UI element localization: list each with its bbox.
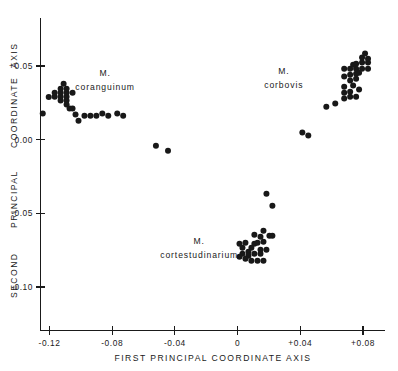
data-point <box>93 113 99 119</box>
y-axis-title-group: SECONDPRINCIPALCOORDINATEAXIS <box>9 43 19 298</box>
data-point <box>248 245 254 251</box>
data-point <box>365 66 371 72</box>
data-point <box>64 86 70 92</box>
data-point <box>353 94 359 100</box>
data-point <box>269 203 275 209</box>
data-point <box>347 72 353 78</box>
data-point <box>87 113 93 119</box>
cortestudinarium-label-line-1: cortestudinarium <box>160 250 238 260</box>
data-point <box>341 96 347 102</box>
data-point <box>239 245 245 251</box>
data-point <box>260 228 266 234</box>
data-point <box>323 104 329 110</box>
data-point <box>255 258 261 264</box>
data-point <box>242 240 248 246</box>
data-point <box>350 62 356 68</box>
data-point <box>365 56 371 62</box>
data-point <box>299 130 305 136</box>
series-2 <box>236 191 275 264</box>
data-point <box>356 87 362 93</box>
x-tick-label-0: -0.12 <box>39 338 61 348</box>
data-point <box>341 84 347 90</box>
data-point <box>263 191 269 197</box>
data-point <box>260 258 266 264</box>
data-point <box>76 118 82 124</box>
x-tick-label-5: +0.08 <box>351 338 375 348</box>
coranguinum-label-line-1: coranguinum <box>75 82 135 92</box>
data-point <box>260 239 266 245</box>
data-point <box>251 232 257 238</box>
data-point <box>242 256 248 262</box>
data-point <box>257 251 263 257</box>
data-point <box>305 133 311 139</box>
axes-group <box>41 18 386 331</box>
data-point <box>105 113 111 119</box>
data-point <box>70 106 76 112</box>
data-point <box>99 111 105 117</box>
data-point <box>263 247 269 253</box>
data-point <box>257 234 263 240</box>
y-axis-title-word-3: AXIS <box>9 43 19 68</box>
data-point <box>341 90 347 96</box>
data-point <box>347 78 353 84</box>
annotation-group: M.coranguinumM.corbovisM.cortestudinariu… <box>75 66 303 259</box>
data-point <box>153 143 159 149</box>
data-point <box>350 83 356 89</box>
y-axis-title-word-1: PRINCIPAL <box>9 170 19 228</box>
x-tick-label-group: -0.12-0.08-0.040+0.04+0.08 <box>39 338 375 348</box>
data-point <box>347 89 353 95</box>
data-point <box>81 113 87 119</box>
data-point <box>248 258 254 264</box>
series-3 <box>299 51 371 139</box>
x-tick-label-2: -0.04 <box>164 338 186 348</box>
data-point <box>40 111 46 117</box>
data-point <box>114 111 120 117</box>
x-tick-label-3: 0 <box>235 338 240 348</box>
data-point <box>362 51 368 57</box>
scatter-plot-figure: -0.12-0.08-0.040+0.04+0.08 +0.050.00-0.0… <box>0 0 398 371</box>
corbovis-label-line-0: M. <box>278 66 289 76</box>
coranguinum-label-line-0: M. <box>99 68 110 78</box>
x-axis-title: FIRST PRINCIPAL COORDINATE AXIS <box>115 353 312 363</box>
data-point <box>356 70 362 76</box>
data-point <box>58 86 64 92</box>
data-point <box>46 94 52 100</box>
data-point <box>251 251 257 257</box>
data-point <box>255 240 261 246</box>
x-tick-label-4: +0.04 <box>288 338 312 348</box>
data-point <box>341 66 347 72</box>
y-axis-title-word-0: SECOND <box>9 253 19 298</box>
corbovis-label-line-1: corbovis <box>264 80 303 90</box>
y-axis-title-word-2: COORDINATE <box>9 77 19 148</box>
series-1 <box>153 143 171 154</box>
data-point <box>332 101 338 107</box>
data-point <box>58 98 64 104</box>
cortestudinarium-label-line-0: M. <box>194 236 205 246</box>
data-point <box>269 233 275 239</box>
data-point <box>61 81 67 87</box>
data-point <box>52 90 58 96</box>
data-point <box>341 74 347 80</box>
data-point <box>73 112 79 118</box>
plot-canvas: -0.12-0.08-0.040+0.04+0.08 +0.050.00-0.0… <box>0 0 398 371</box>
data-point <box>165 148 171 154</box>
data-point <box>120 113 126 119</box>
x-tick-label-1: -0.08 <box>101 338 123 348</box>
